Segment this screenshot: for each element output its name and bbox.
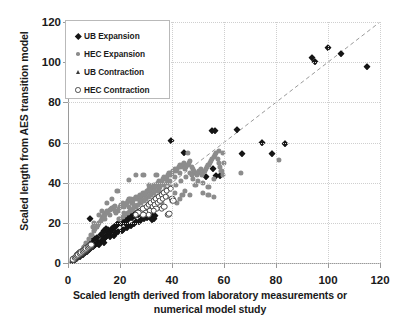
x-axis-tick [172,263,173,268]
y-axis-tick-label: 20 [48,217,61,229]
legend-label: UB Expansion [84,31,140,41]
gridline-vertical [276,22,277,263]
legend-item-hec-contraction: HEC Contraction [72,81,169,99]
data-point [161,203,168,210]
gridline-vertical [328,22,329,263]
data-point [133,172,138,177]
x-axis-tick [68,263,69,268]
data-point [188,158,193,163]
data-point [211,194,216,199]
data-point [102,216,107,221]
data-point [281,140,289,148]
x-axis-tick-label: 40 [166,274,179,286]
data-point [104,200,109,205]
y-axis-tick [63,223,68,224]
data-point [132,212,139,219]
data-point [180,192,185,197]
data-point [167,138,175,146]
open-triangle-icon [72,70,84,74]
x-axis-tick-label: 120 [370,274,389,286]
legend-label: HEC Expansion [84,49,145,59]
y-axis-tick-label: 60 [48,137,61,149]
x-axis-tick [276,263,277,268]
legend-item-ub-expansion: UB Expansion [72,27,169,45]
data-point [268,150,276,158]
gridline-vertical [172,22,173,263]
x-axis-label-line-2: numerical model study [40,302,380,316]
y-axis-tick-label: 100 [42,56,61,68]
data-point [211,128,219,136]
open-circle-icon [72,87,84,93]
filled-circle-icon [72,52,84,56]
x-axis-tick [120,263,121,268]
data-point [206,184,211,189]
x-axis-tick-label: 80 [270,274,283,286]
y-axis-tick [63,102,68,103]
legend-item-ub-contraction: UB Contraction [72,63,169,81]
y-axis-tick-label: 120 [42,16,61,28]
data-point [238,150,246,158]
data-point [188,192,193,197]
x-axis-tick-label: 20 [114,274,127,286]
data-point [337,50,345,58]
gridline-vertical [380,22,381,263]
legend-label: HEC Contraction [84,85,150,95]
data-point [363,63,371,71]
chart-legend: UB Expansion HEC Expansion UB Contractio… [65,20,170,99]
data-point [238,170,243,175]
data-point [177,170,182,175]
y-axis-tick [63,143,68,144]
x-axis-tick [380,263,381,268]
y-axis-tick-label: 40 [48,177,61,189]
x-axis-label: Scaled length derived from laboratory me… [40,288,380,316]
data-point [185,150,190,155]
x-axis-tick-label: 0 [65,274,71,286]
legend-item-hec-expansion: HEC Expansion [72,45,169,63]
data-point [107,212,112,217]
data-point [88,241,95,248]
data-point [154,172,159,177]
x-axis-tick [224,263,225,268]
y-axis-tick-label: 0 [55,257,61,269]
legend-label: UB Contraction [84,67,144,77]
data-point [170,197,177,204]
data-point [110,196,115,201]
data-point [182,166,187,171]
x-axis-label-line-1: Scaled length derived from laboratory me… [40,288,380,302]
scatter-chart: Scaled length from AES transition model … [0,0,405,329]
data-point [127,177,132,182]
y-axis-tick [63,183,68,184]
y-axis-label: Scaled length from AES transition model [18,11,30,251]
x-axis-tick [328,263,329,268]
data-point [233,127,241,135]
data-point [141,172,146,177]
y-axis-tick-label: 80 [48,96,61,108]
filled-diamond-icon [72,34,84,39]
data-point [211,176,216,181]
gridline-vertical [224,22,225,263]
x-axis-tick-label: 60 [218,274,231,286]
x-axis-tick-label: 100 [318,274,337,286]
